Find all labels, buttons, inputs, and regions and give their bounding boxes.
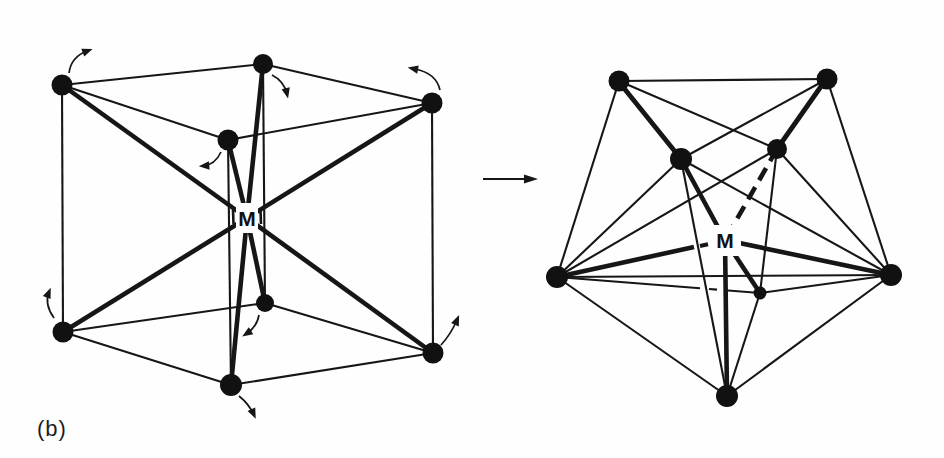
figure-cube-to-square-antiprism: MM (b) [0, 0, 944, 458]
ligand-atom [218, 130, 239, 151]
metal-label-dash [700, 244, 708, 246]
ligand-atom [220, 374, 242, 396]
ligand-atom [716, 385, 738, 407]
metal-ligand-bond [725, 240, 727, 396]
metal-ligand-bond [231, 218, 247, 385]
square-antiprism-ML8-thick-edge [623, 87, 681, 159]
metal-ligand-bond [557, 247, 694, 277]
rotation-arrowhead [43, 288, 51, 299]
ligand-atom [546, 266, 568, 288]
ligand-atom [609, 71, 630, 92]
cubic-ML8-edge [263, 64, 265, 303]
ligand-atom [817, 69, 838, 90]
ligand-atom [52, 75, 73, 96]
cubic-ML8-edge [265, 303, 433, 353]
square-antiprism-ML8-edge-segment [557, 277, 700, 288]
metal-ligand-bond [247, 64, 263, 218]
diagram-canvas: MM [0, 0, 944, 458]
ligand-atom [422, 93, 443, 114]
metal-ligand-bond [725, 240, 891, 275]
square-antiprism-ML8-edge [619, 79, 827, 81]
rotation-arrowhead [81, 49, 92, 57]
transition-arrowhead [524, 175, 538, 184]
cubic-ML8-edge [263, 64, 432, 103]
ligand-atom [670, 148, 692, 170]
metal-ligand-bond [62, 85, 247, 218]
square-antiprism-ML8-edge [681, 79, 827, 159]
rotation-arrowhead [199, 161, 210, 169]
square-antiprism-ML8-edge [681, 159, 727, 396]
square-antiprism-ML8-edge [557, 149, 777, 277]
cubic-ML8-edge [432, 103, 433, 353]
rotation-arrowhead [451, 315, 459, 326]
square-antiprism-ML8-edge-segment [709, 289, 717, 290]
metal-ligand-bond [247, 218, 433, 353]
ligand-atom [767, 139, 787, 159]
ligand-atom [53, 322, 74, 343]
metal-center-label: M [716, 229, 734, 252]
cubic-ML8-edge [231, 353, 433, 385]
rotation-arrowhead [248, 408, 256, 419]
rotation-arrow [415, 69, 440, 90]
ligand-atom [754, 287, 767, 300]
cubic-ML8-edge [62, 85, 63, 332]
cubic-ML8-edge [63, 332, 231, 385]
metal-ligand-bond [63, 218, 247, 332]
ligand-atom [880, 264, 902, 286]
ligand-atom [253, 54, 273, 74]
rotation-arrowhead [282, 87, 290, 98]
figure-caption-label: (b) [37, 416, 67, 442]
metal-label-dash [261, 210, 262, 224]
metal-label-dash [233, 210, 234, 224]
ligand-atom [256, 294, 274, 312]
metal-center-label: M [238, 207, 256, 230]
cubic-ML8-edge [62, 64, 263, 85]
cubic-ML8-edge [62, 85, 228, 140]
square-antiprism-ML8-edge [727, 293, 760, 396]
square-antiprism-ML8-edge [557, 277, 727, 396]
cubic-ML8-edge [228, 140, 231, 385]
rotation-arrowhead [408, 65, 419, 73]
ligand-atom [423, 343, 444, 364]
